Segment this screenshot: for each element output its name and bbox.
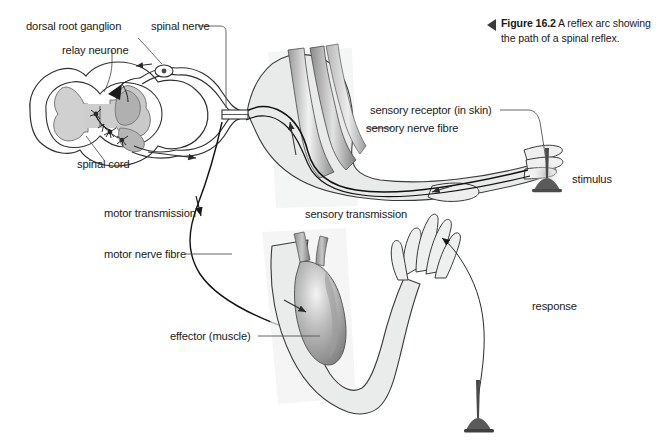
label-motor-transmission: motor transmission bbox=[104, 207, 196, 219]
label-sensory-nerve-fibre: sensory nerve fibre bbox=[366, 122, 458, 134]
label-spinal-nerve: spinal nerve bbox=[151, 20, 210, 32]
label-spinal-cord: spinal cord bbox=[77, 158, 129, 170]
label-stimulus: stimulus bbox=[572, 173, 612, 185]
left-triangle-icon bbox=[487, 19, 496, 31]
reflex-arc-figure: dorsal root ganglion spinal nerve relay … bbox=[0, 0, 659, 443]
label-sensory-receptor: sensory receptor (in skin) bbox=[370, 104, 492, 116]
reflex-arc-diagram bbox=[0, 0, 659, 443]
stimulus-pin-lower bbox=[464, 380, 494, 432]
label-sensory-transmission: sensory transmission bbox=[305, 208, 407, 220]
figure-caption-text: Figure 16.2 A reflex arc showing the pat… bbox=[501, 16, 659, 45]
figure-number: Figure 16.2 bbox=[501, 17, 556, 29]
spinal-cord-cross-section bbox=[30, 38, 248, 166]
label-dorsal-root-ganglion: dorsal root ganglion bbox=[26, 20, 121, 32]
label-relay-neurone: relay neurone bbox=[62, 44, 128, 56]
label-effector-muscle: effector (muscle) bbox=[170, 330, 251, 342]
label-response: response bbox=[532, 300, 577, 312]
figure-caption: Figure 16.2 A reflex arc showing the pat… bbox=[487, 16, 659, 45]
label-motor-nerve-fibre: motor nerve fibre bbox=[104, 248, 186, 260]
lower-arm-limb bbox=[262, 214, 460, 414]
